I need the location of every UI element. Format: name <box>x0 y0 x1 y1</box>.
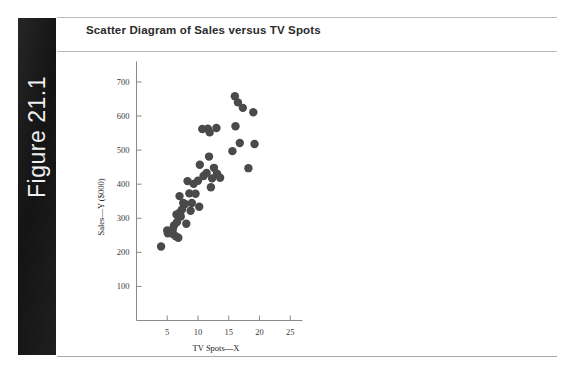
y-tick-label: 600 <box>117 111 130 121</box>
data-point <box>188 199 196 207</box>
data-point <box>212 124 220 132</box>
data-point <box>239 104 247 112</box>
data-point <box>191 190 199 198</box>
y-tick-label: 200 <box>117 247 130 257</box>
y-tick-label: 700 <box>117 77 130 87</box>
data-point <box>195 202 203 210</box>
data-point <box>244 164 252 172</box>
data-point <box>231 122 239 130</box>
x-axis: 510152025 <box>137 316 303 337</box>
data-point <box>250 140 258 148</box>
y-axis-title: Sales—Y ($000) <box>96 178 106 235</box>
x-axis-title: TV Spots—X <box>193 343 240 353</box>
y-tick-label: 100 <box>117 281 130 291</box>
x-tick-label: 10 <box>194 327 203 337</box>
data-point-group <box>157 92 259 251</box>
x-tick-label: 25 <box>286 327 295 337</box>
data-point <box>157 242 165 250</box>
figure-page: Figure 21.1 Scatter Diagram of Sales ver… <box>0 0 573 378</box>
data-point <box>182 220 190 228</box>
y-tick-label: 500 <box>117 145 130 155</box>
data-point <box>177 212 185 220</box>
y-tick-group: 100200300400500600700 <box>117 77 142 291</box>
data-point <box>236 139 244 147</box>
scatter-chart: 100200300400500600700 510152025 TV Spots… <box>0 0 573 378</box>
scatter-plot-svg: 100200300400500600700 510152025 TV Spots… <box>0 0 573 378</box>
y-tick-label: 300 <box>117 213 130 223</box>
data-point <box>216 174 224 182</box>
data-point <box>207 183 215 191</box>
data-point <box>174 233 182 241</box>
data-point <box>205 152 213 160</box>
x-tick-label: 20 <box>255 327 264 337</box>
y-axis: 100200300400500600700 <box>117 62 142 321</box>
x-tick-label: 15 <box>224 327 233 337</box>
data-point <box>196 161 204 169</box>
x-tick-group: 510152025 <box>165 316 294 337</box>
data-point <box>249 108 257 116</box>
data-point <box>186 207 194 215</box>
x-tick-label: 5 <box>165 327 169 337</box>
y-tick-label: 400 <box>117 179 130 189</box>
data-point <box>228 147 236 155</box>
